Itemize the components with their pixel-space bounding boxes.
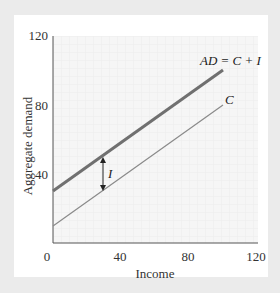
investment-label: I <box>107 166 113 181</box>
ad-curve-label: AD = C + I <box>199 53 262 68</box>
y-tick-40: 40 <box>35 167 48 182</box>
x-tick-80: 80 <box>182 249 195 264</box>
x-tick-40: 40 <box>114 249 127 264</box>
chart-svg: I AD = C + I C 120 80 40 0 40 80 120 Inc… <box>0 0 280 293</box>
x-axis-title: Income <box>136 266 175 281</box>
y-axis-title: Aggregate demand <box>20 96 35 195</box>
x-tick-120: 120 <box>246 249 266 264</box>
c-curve-label: C <box>225 92 234 107</box>
x-tick-0: 0 <box>44 249 51 264</box>
y-tick-120: 120 <box>29 28 49 43</box>
y-tick-80: 80 <box>35 98 48 113</box>
